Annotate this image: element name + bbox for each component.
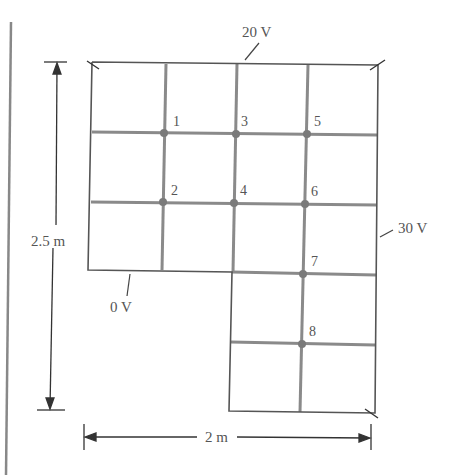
node-8 (298, 340, 306, 348)
node-label-8: 8 (309, 325, 316, 339)
node-6 (301, 200, 309, 208)
node-3 (232, 130, 240, 138)
width-dimension-label: 2 m (205, 430, 228, 445)
node-5 (303, 130, 311, 138)
node-label-1: 1 (173, 115, 180, 129)
node-label-4: 4 (240, 184, 247, 198)
right-voltage-label: 30 V (398, 221, 427, 236)
top-voltage-label: 20 V (242, 25, 271, 40)
height-dimension-label: 2.5 m (31, 234, 65, 249)
page-edge-line (6, 22, 11, 475)
grid-diagram (0, 0, 460, 475)
node-2 (159, 198, 167, 206)
node-4 (230, 199, 238, 207)
bottom-voltage-label: 0 V (110, 300, 132, 315)
inner-grid (91, 64, 377, 412)
node-label-2: 2 (171, 184, 178, 198)
node-label-3: 3 (241, 115, 248, 129)
node-1 (160, 129, 168, 137)
node-label-6: 6 (311, 185, 318, 199)
node-label-5: 5 (314, 115, 321, 129)
node-7 (299, 270, 307, 278)
node-label-7: 7 (311, 255, 318, 269)
